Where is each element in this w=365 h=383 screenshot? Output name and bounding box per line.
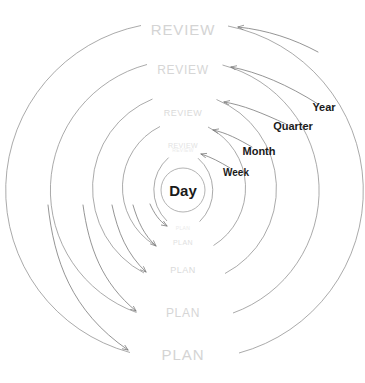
plan-label-quarter: PLAN [170,265,196,275]
cycle-label-month: Month [243,145,276,157]
plan-label-year: PLAN [166,306,200,320]
cycle-label-quarter: Quarter [273,120,313,132]
ring-arc-quarter-right [217,100,277,274]
cycle-label-year: Year [312,101,335,113]
plan-label-outer: PLAN [162,346,205,363]
cycle-label-week: Week [223,167,249,178]
plan-label-month: PLAN [173,239,193,246]
review-label-quarter: REVIEW [164,108,203,118]
arrow-plan-quarter [112,205,146,272]
arrow-plan-week [150,204,167,226]
arrow-plan-outer [48,205,128,350]
plan-arrows [48,204,167,350]
ring-arc-year-right [223,65,320,313]
arrow-review-outer [238,27,318,52]
arrow-plan-month [133,205,156,246]
plan-label-week: PLAN [176,225,190,231]
ring-arc-week-right [198,158,213,221]
review-label-outer: REVIEW [151,21,216,38]
review-label-year: REVIEW [157,63,209,77]
center-label-day: Day [169,182,197,199]
ring-arc-month-right [208,127,246,246]
arrow-plan-year [83,205,136,311]
cycle-diagram: REVIEW REVIEW REVIEW REVIEW REVIEW PLAN … [0,0,365,383]
review-label-month: REVIEW [168,142,198,149]
